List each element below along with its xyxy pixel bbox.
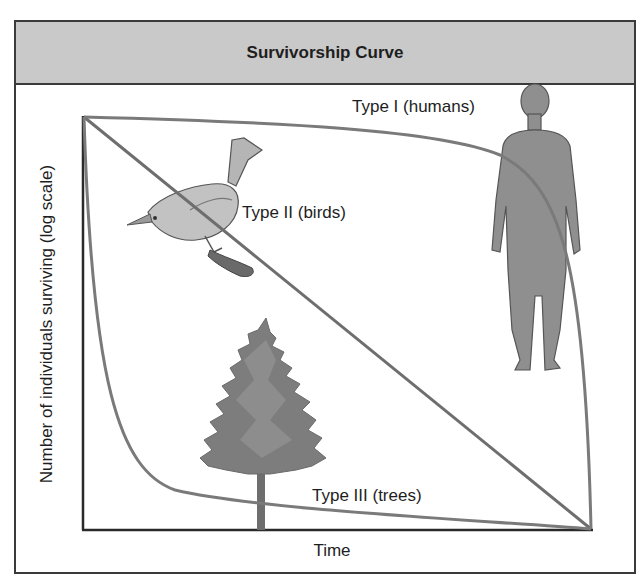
type3-label: Type III (trees) xyxy=(312,486,422,505)
x-axis-label: Time xyxy=(313,541,350,560)
y-axis-label: Number of individuals surviving (log sca… xyxy=(37,165,56,483)
human-icon xyxy=(492,84,580,370)
type2-label: Type II (birds) xyxy=(242,203,346,222)
survivorship-plot: Number of individuals surviving (log sca… xyxy=(0,0,644,586)
type1-label: Type I (humans) xyxy=(352,97,475,116)
